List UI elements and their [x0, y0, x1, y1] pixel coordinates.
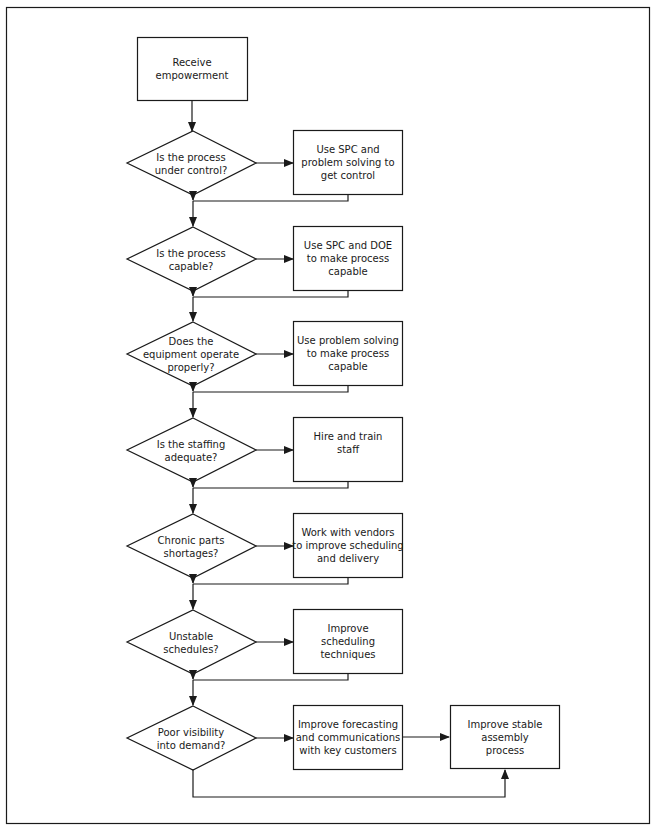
decision-label-line: properly? [168, 362, 215, 373]
action-label-line: Improve forecasting [298, 719, 398, 730]
action-node: Use SPC andproblem solving toget control [294, 131, 403, 195]
end-node: Improve stable assembly process [451, 706, 560, 769]
decision-label-line: schedules? [163, 644, 218, 655]
action-label-line: capable [328, 361, 367, 372]
decision-label-line: Is the staffing [157, 439, 226, 450]
action-label-line: Use problem solving [297, 335, 399, 346]
action-label-line: and delivery [317, 553, 379, 564]
decision-label-line: Is the process [156, 248, 225, 259]
action-label-line: problem solving to [301, 157, 394, 168]
action-label-line: scheduling [321, 636, 375, 647]
start-node: Receive empowerment [138, 38, 248, 101]
decision-label-line: adequate? [165, 452, 218, 463]
action-node: Work with vendorsto improve schedulingan… [292, 514, 403, 578]
decision-label-line: Chronic parts [158, 535, 225, 546]
decision-label-line: under control? [155, 165, 227, 176]
decision-node: Does theequipment operateproperly? [127, 322, 256, 386]
end-label-line: assembly [481, 732, 529, 743]
return-connector [193, 578, 348, 584]
action-node: Improve forecastingand communicationswit… [294, 706, 403, 770]
decision-label-line: shortages? [164, 548, 219, 559]
outer-frame [7, 8, 650, 824]
return-connector [193, 386, 348, 392]
decision-node: Is the processcapable? [127, 227, 256, 291]
end-label-line: process [486, 745, 524, 756]
action-label-line: techniques [320, 649, 375, 660]
action-label-line: Use SPC and DOE [304, 240, 392, 251]
start-label-line: Receive [172, 57, 211, 68]
action-node: Improveschedulingtechniques [294, 610, 403, 674]
decision-label-line: Poor visibility [158, 727, 224, 738]
action-label-line: Work with vendors [301, 527, 394, 538]
action-label-line: get control [321, 170, 375, 181]
action-node: Use SPC and DOEto make processcapable [294, 227, 403, 291]
action-label-line: Improve [327, 623, 368, 634]
end-label-line: Improve stable [468, 719, 543, 730]
action-label-line: to make process [307, 253, 389, 264]
decision-label-line: Is the process [156, 152, 225, 163]
decision-node: Is the processunder control? [127, 131, 256, 195]
action-label-line: and communications [296, 732, 401, 743]
decision-label-line: Does the [169, 336, 214, 347]
action-label-line: Hire and train [314, 431, 383, 442]
decision-node: Unstableschedules? [127, 610, 256, 674]
action-label-line: to make process [307, 348, 389, 359]
action-label-line: to improve scheduling [292, 540, 403, 551]
decision-label-line: into demand? [157, 740, 226, 751]
return-connector [193, 291, 348, 297]
connector-arrow [193, 769, 505, 797]
return-connector [193, 674, 348, 680]
decision-label-line: capable? [169, 261, 214, 272]
decision-label-line: Unstable [169, 631, 213, 642]
action-node: Hire and trainstaff [294, 418, 403, 482]
action-label-line: with key customers [299, 745, 396, 756]
decision-node: Chronic partsshortages? [127, 514, 256, 578]
decision-node: Poor visibilityinto demand? [127, 706, 256, 770]
start-label-line: empowerment [156, 70, 229, 81]
decision-node: Is the staffingadequate? [127, 418, 256, 482]
return-connector [193, 482, 348, 488]
action-label-line: Use SPC and [316, 144, 379, 155]
decision-label-line: equipment operate [143, 349, 239, 360]
action-label-line: staff [337, 444, 360, 455]
action-label-line: capable [328, 266, 367, 277]
return-connector [193, 195, 348, 201]
action-node: Use problem solvingto make processcapabl… [294, 322, 403, 386]
flowchart-canvas: Receive empowerment Is the processunder … [0, 0, 654, 829]
